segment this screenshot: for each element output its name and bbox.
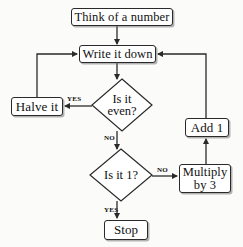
node-add-1[interactable]: Add 1 <box>185 118 229 137</box>
node-stop[interactable]: Stop <box>104 220 148 240</box>
edge-label-one-yes: YES <box>104 206 119 214</box>
flowchart-diagram: Think of a number Write it down Is it ev… <box>0 0 243 247</box>
edge-halve-to-write <box>37 54 77 97</box>
edge-add-to-write <box>158 54 206 118</box>
edge-label-one-no: NO <box>157 166 168 174</box>
decision-is-it-one-shape <box>90 149 152 201</box>
node-halve-it[interactable]: Halve it <box>11 97 63 116</box>
edge-label-even-no: NO <box>104 134 115 142</box>
node-multiply-by-3[interactable]: Multiply by 3 <box>179 164 231 193</box>
node-think-of-a-number[interactable]: Think of a number <box>71 8 173 26</box>
decision-is-it-even-shape <box>92 79 152 131</box>
node-write-it-down[interactable]: Write it down <box>79 45 156 63</box>
edge-label-even-yes: YES <box>67 95 82 103</box>
